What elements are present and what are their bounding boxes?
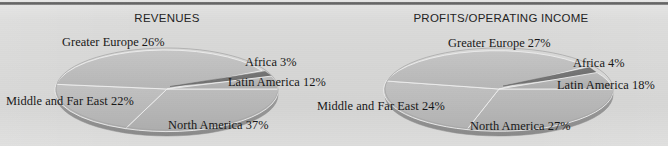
label-profits-greater-europe: Greater Europe 27% — [448, 36, 551, 51]
label-revenues-africa: Africa 3% — [245, 55, 297, 70]
label-profits-africa: Africa 4% — [573, 56, 625, 71]
label-revenues-latin-america: Latin America 12% — [228, 75, 326, 90]
figure-panel: REVENUES PROFITS/OPERATING INCOME — [0, 0, 668, 146]
label-revenues-middle-far-east: Middle and Far East 22% — [6, 94, 134, 109]
label-profits-latin-america: Latin America 18% — [557, 78, 655, 93]
label-revenues-greater-europe: Greater Europe 26% — [62, 35, 165, 50]
label-revenues-north-america: North America 37% — [168, 118, 269, 133]
label-profits-north-america: North America 27% — [470, 119, 571, 134]
label-profits-middle-far-east: Middle and Far East 24% — [317, 99, 445, 114]
